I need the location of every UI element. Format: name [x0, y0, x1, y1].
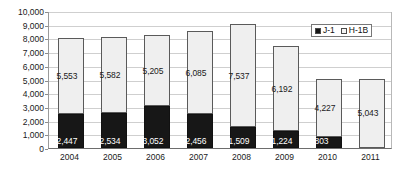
bar-label-j1: 803 — [315, 137, 329, 146]
bar-label-h1b: 5,582 — [100, 71, 121, 80]
y-tick-label: 10,000 — [0, 8, 44, 17]
legend-label: J-1 — [323, 26, 335, 35]
stacked-bar-chart: 10,0009,0008,0007,0006,0005,0004,0003,00… — [0, 0, 410, 180]
y-tick-label: 4,000 — [0, 90, 44, 99]
bar-label-j1: 2,534 — [100, 137, 121, 146]
x-tick-label: 2010 — [306, 152, 349, 163]
y-tick-label: 0 — [0, 145, 44, 154]
y-tick-label: 5,000 — [0, 76, 44, 85]
bar-group[interactable]: 2,4475,553 — [58, 11, 84, 148]
legend-swatch-icon — [341, 28, 347, 34]
y-tick-label: 6,000 — [0, 62, 44, 71]
legend-label: H-1B — [349, 26, 368, 35]
x-tick-label: 2011 — [349, 152, 392, 163]
x-tick-label: 2007 — [177, 152, 220, 163]
y-tick-label: 8,000 — [0, 35, 44, 44]
y-tick-mark — [45, 149, 48, 150]
bar-group[interactable]: 3,0525,205 — [144, 11, 170, 148]
bar-label-h1b: 6,192 — [272, 85, 293, 94]
bar-label-h1b: 5,553 — [57, 72, 78, 81]
bar-label-j1: 1,224 — [272, 137, 293, 146]
bar-label-h1b: 6,085 — [186, 69, 207, 78]
x-tick-label: 2008 — [220, 152, 263, 163]
bar-label-h1b: 7,537 — [229, 72, 250, 81]
y-tick-label: 2,000 — [0, 117, 44, 126]
bar-group[interactable]: 1,2246,192 — [273, 11, 299, 148]
bar-label-j1: 3,052 — [143, 137, 164, 146]
y-tick-label: 9,000 — [0, 21, 44, 30]
bar-label-h1b: 5,205 — [143, 67, 164, 76]
bar-group[interactable]: 2,4566,085 — [187, 11, 213, 148]
bar-label-j1: 1,509 — [229, 137, 250, 146]
y-tick-label: 3,000 — [0, 103, 44, 112]
y-axis: 10,0009,0008,0007,0006,0005,0004,0003,00… — [0, 12, 44, 149]
bar-group[interactable]: 2,5345,582 — [101, 11, 127, 148]
x-tick-label: 2009 — [263, 152, 306, 163]
y-tick-label: 1,000 — [0, 131, 44, 140]
legend-entry[interactable]: J-1 — [315, 26, 335, 35]
bar-label-j1: 2,447 — [57, 137, 78, 146]
x-tick-label: 2005 — [91, 152, 134, 163]
legend-entry[interactable]: H-1B — [341, 26, 368, 35]
bar-label-j1: 2,456 — [186, 137, 207, 146]
bar-label-h1b: 4,227 — [315, 104, 336, 113]
x-axis: 20042005200620072008200920102011 — [48, 152, 392, 168]
bar-group[interactable]: 1,5097,537 — [230, 11, 256, 148]
x-tick-label: 2006 — [134, 152, 177, 163]
legend-swatch-icon — [315, 28, 321, 34]
y-tick-label: 7,000 — [0, 49, 44, 58]
chart-legend: J-1H-1B — [311, 24, 372, 37]
x-tick-label: 2004 — [48, 152, 91, 163]
bar-label-h1b: 5,043 — [358, 109, 379, 118]
